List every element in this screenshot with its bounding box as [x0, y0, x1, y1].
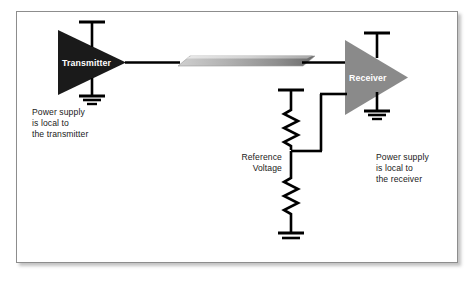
reference-voltage-label: Reference Voltage [196, 152, 282, 175]
resistor-upper [284, 106, 298, 150]
transmission-line-cable [178, 56, 315, 67]
circuit-canvas [0, 0, 476, 286]
divider-power-rail [278, 90, 304, 106]
caption-receiver-supply: Power supply is local to the receiver [376, 152, 429, 186]
receiver-label: Receiver [349, 73, 386, 83]
reference-voltage-tap [291, 94, 347, 151]
caption-transmitter-supply: Power supply is local to the transmitter [32, 107, 88, 141]
figure-root: Transmitter Receiver Power supply is loc… [0, 0, 476, 286]
transmitter-label: Transmitter [62, 58, 111, 68]
divider-ground [278, 233, 304, 238]
resistor-lower [284, 151, 298, 233]
